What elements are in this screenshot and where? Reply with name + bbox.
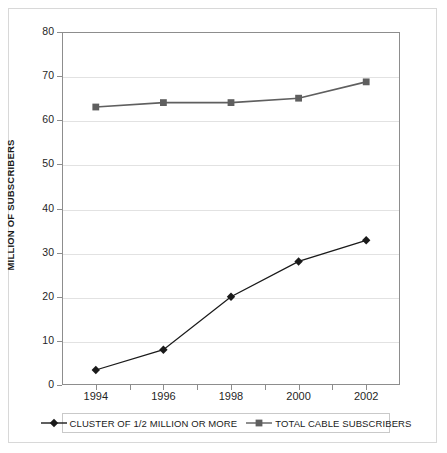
chart-figure: MILLION OF SUBSCRIBERS 01020304050607080… (0, 0, 447, 453)
x-category-separator (332, 385, 333, 390)
x-category-separator (265, 385, 266, 390)
chart-legend: CLUSTER OF 1/2 MILLION OR MORETOTAL CABL… (62, 413, 390, 433)
square-marker-icon (92, 104, 99, 111)
x-tick-label: 2000 (269, 390, 329, 403)
square-marker-icon (295, 95, 302, 102)
y-axis-title: MILLION OF SUBSCRIBERS (5, 0, 19, 120)
y-tick-label: 50 (28, 158, 54, 169)
legend-label: CLUSTER OF 1/2 MILLION OR MORE (70, 418, 238, 429)
y-tick-label: 20 (28, 291, 54, 302)
x-category-separator (197, 385, 198, 390)
square-marker-icon (246, 417, 272, 429)
diamond-marker-icon (362, 236, 370, 244)
y-tick-label: 30 (28, 247, 54, 258)
diamond-marker-icon (294, 257, 302, 265)
x-tick-label: 1996 (133, 390, 193, 403)
y-tick-label: 80 (28, 26, 54, 37)
diamond-marker-icon (41, 417, 67, 429)
square-marker-icon (363, 78, 370, 85)
x-tick-mark (299, 385, 300, 390)
y-tick-label: 10 (28, 335, 54, 346)
y-tick-label: 70 (28, 70, 54, 81)
y-tick-mark (57, 385, 62, 386)
square-marker-icon (160, 99, 167, 106)
series-line (96, 240, 366, 370)
legend-label: TOTAL CABLE SUBSCRIBERS (275, 418, 411, 429)
x-tick-mark (366, 385, 367, 390)
x-tick-mark (163, 385, 164, 390)
x-tick-label: 2002 (336, 390, 396, 403)
square-marker-icon (256, 420, 263, 427)
series-2 (92, 78, 369, 110)
x-tick-mark (231, 385, 232, 390)
y-axis-title-text: MILLION OF SUBSCRIBERS (5, 120, 16, 290)
x-tick-label: 1998 (201, 390, 261, 403)
x-category-separator (130, 385, 131, 390)
y-tick-label: 60 (28, 114, 54, 125)
y-tick-label: 0 (28, 379, 54, 390)
data-series-layer (62, 32, 400, 385)
diamond-marker-icon (49, 419, 57, 427)
series-1 (92, 236, 371, 374)
x-tick-label: 1994 (66, 390, 126, 403)
legend-entry: TOTAL CABLE SUBSCRIBERS (246, 417, 411, 429)
legend-entry: CLUSTER OF 1/2 MILLION OR MORE (41, 417, 238, 429)
diamond-marker-icon (92, 366, 100, 374)
y-tick-label: 40 (28, 203, 54, 214)
x-tick-mark (96, 385, 97, 390)
square-marker-icon (228, 99, 235, 106)
